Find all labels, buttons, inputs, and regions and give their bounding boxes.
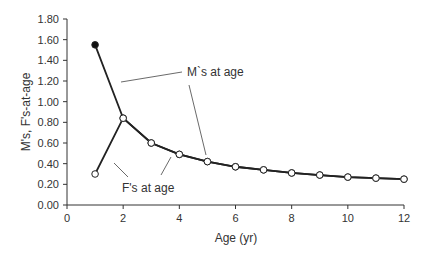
y-tick-label: 0.80 [38,116,59,128]
annotation-f-label: F's at age [122,181,175,195]
y-tick-label: 0.00 [38,199,59,211]
open-marker [92,171,99,178]
open-marker [316,172,323,179]
series-line [95,45,404,179]
y-tick-label: 1.20 [38,75,59,87]
x-tick-label: 10 [342,212,354,224]
leader-line [121,72,182,82]
y-tick-label: 1.60 [38,34,59,46]
data-series [92,42,408,183]
leader-line [114,163,128,177]
open-marker [176,151,183,158]
chart: 0.000.200.400.600.801.001.201.401.601.80… [0,0,431,264]
x-tick-label: 12 [398,212,410,224]
leader-line [161,157,171,175]
y-axis-ticks: 0.000.200.400.600.801.001.201.401.601.80 [38,13,67,211]
y-tick-label: 0.40 [38,158,59,170]
open-marker [260,167,267,174]
x-tick-label: 8 [289,212,295,224]
series-line [95,118,404,179]
x-tick-label: 4 [176,212,182,224]
open-marker [204,158,211,165]
filled-marker [92,42,99,49]
y-tick-label: 1.00 [38,96,59,108]
annotation-m-label: M`s at age [187,65,244,79]
y-tick-label: 0.60 [38,137,59,149]
open-marker [345,174,352,181]
y-axis-label: M's, F's-at-age [19,72,33,151]
y-tick-label: 0.20 [38,178,59,190]
x-axis-label: Age (yr) [215,231,258,245]
x-tick-label: 0 [64,212,70,224]
x-axis-ticks: 024681012 [64,205,410,224]
open-marker [148,140,155,147]
annotations: M`s at ageF's at age [114,65,244,195]
y-tick-label: 1.80 [38,13,59,25]
open-marker [288,170,295,177]
open-marker [120,115,127,122]
leader-line [189,85,206,155]
x-tick-label: 2 [120,212,126,224]
y-tick-label: 1.40 [38,54,59,66]
open-marker [401,176,408,183]
open-marker [373,175,380,182]
x-tick-label: 6 [232,212,238,224]
open-marker [232,163,239,170]
